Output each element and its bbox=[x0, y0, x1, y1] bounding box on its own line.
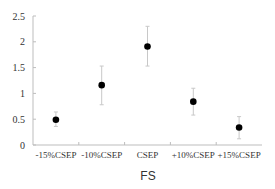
x-tick-label: CSEP bbox=[137, 150, 159, 160]
data-point-marker bbox=[98, 82, 105, 89]
data-point-group bbox=[236, 117, 243, 139]
y-tick-label: 1 bbox=[20, 88, 25, 99]
data-point-marker bbox=[53, 116, 60, 123]
y-axis: 00.511.522.5 bbox=[13, 11, 37, 151]
data-point-group bbox=[53, 112, 60, 126]
data-point-marker bbox=[190, 98, 197, 105]
error-bar-chart: 00.511.522.5 -15%CSEP-10%CSEPCSEP+10%CSE… bbox=[0, 0, 275, 189]
data-point-marker bbox=[236, 124, 243, 131]
data-point-group bbox=[144, 26, 151, 66]
x-tick-label: -15%CSEP bbox=[35, 150, 76, 160]
x-tick-label: +15%CSEP bbox=[218, 150, 261, 160]
data-point-marker bbox=[144, 43, 151, 50]
y-tick-label: 2 bbox=[20, 36, 25, 47]
y-tick-label: 0.5 bbox=[13, 114, 26, 125]
data-series bbox=[53, 26, 243, 138]
x-tick-label: -10%CSEP bbox=[81, 150, 122, 160]
data-point-group bbox=[98, 66, 105, 105]
y-tick-label: 1.5 bbox=[13, 62, 26, 73]
y-tick-label: 0 bbox=[20, 140, 25, 151]
x-axis: -15%CSEP-10%CSEPCSEP+10%CSEP+15%CSEP bbox=[33, 142, 262, 160]
x-tick-label: +10%CSEP bbox=[172, 150, 215, 160]
y-tick-label: 2.5 bbox=[13, 11, 26, 22]
data-point-group bbox=[190, 88, 197, 115]
x-axis-label: FS bbox=[140, 169, 155, 183]
